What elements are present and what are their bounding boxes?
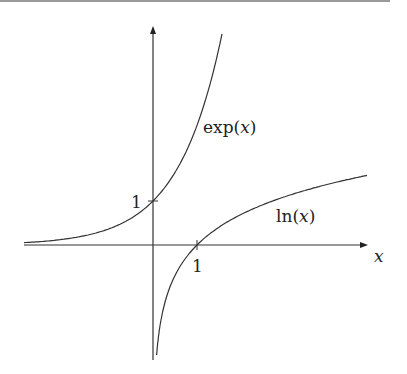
x-axis-label: x (374, 246, 384, 266)
ln-label: ln(x) (276, 206, 315, 226)
exp-label: exp(x) (203, 117, 256, 137)
exp-curve (24, 34, 222, 243)
function-plot: exp(x) ln(x) 1 1 x (0, 0, 407, 374)
ln-curve (157, 175, 367, 355)
x-tick-label: 1 (192, 256, 203, 276)
y-tick-label: 1 (131, 192, 142, 212)
